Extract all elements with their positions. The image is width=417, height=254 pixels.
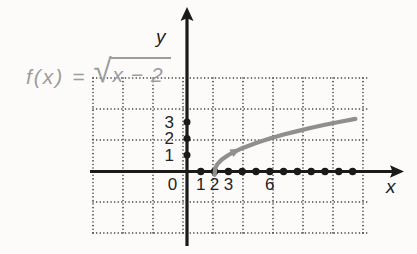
radicand: x − 2: [110, 57, 171, 86]
function-curve: [215, 119, 356, 175]
x-tick-label-1: 1: [196, 176, 205, 193]
y-tick-label-3: 3: [150, 114, 174, 131]
y-axis-dots: [184, 119, 191, 159]
radical-expression: √ x − 2: [93, 57, 170, 86]
y-axis-label: y: [156, 27, 166, 46]
x-tick-label-0: 0: [168, 176, 177, 193]
x-tick-label-3: 3: [224, 176, 233, 193]
x-tick-label-6: 6: [265, 176, 274, 193]
y-tick-label-2: 2: [150, 130, 174, 147]
y-tick-label-1: 1: [150, 147, 174, 164]
function-formula: f(x) = √ x − 2: [26, 57, 171, 88]
graph-canvas: [0, 0, 417, 254]
y-axis: [181, 7, 194, 246]
x-axis-label: x: [386, 177, 396, 196]
formula-lhs: f(x) =: [26, 65, 86, 88]
graph-figure: f(x) = √ x − 2 y x 01236123: [0, 0, 417, 254]
x-axis: [90, 165, 404, 178]
x-tick-label-2: 2: [210, 176, 219, 193]
